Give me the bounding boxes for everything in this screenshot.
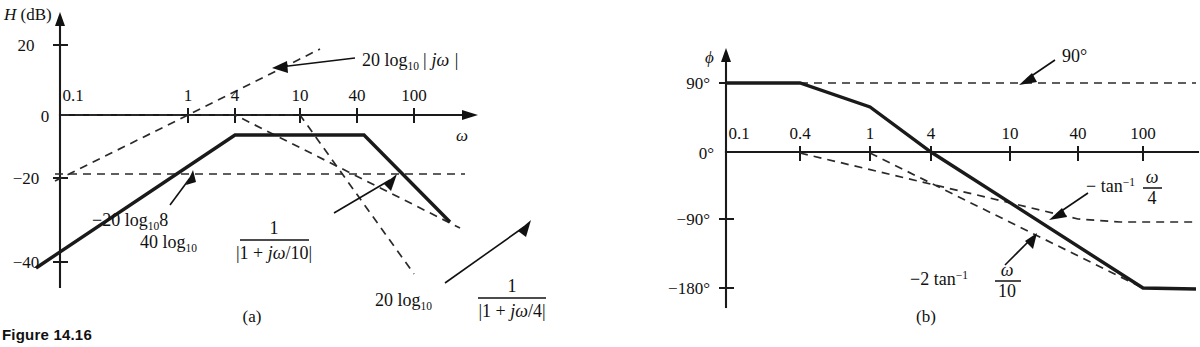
- x-tick-label-0.1-a: 0.1: [62, 86, 83, 105]
- figure-container: H (dB) 20 0 −20 −40 0.1 1 4 10 40 100 ω …: [0, 0, 1200, 347]
- annotation-minus20log8-text: −20 log108: [92, 210, 168, 232]
- panel-a-label: (a): [243, 307, 262, 326]
- x-tick-label-4-b: 4: [927, 124, 936, 143]
- x-tick-label-0.4-b: 0.4: [789, 124, 811, 143]
- panel-b: ϕ 90° 0° −90° −180° 0.1 0.4 1 4 10 40 10…: [668, 46, 1198, 326]
- annotation-2atan-w-over-10-prefix: −2 tan−1: [910, 269, 968, 289]
- annotation-20log-pole4-denominator: |1 + jω/4|: [478, 301, 545, 321]
- annotation-atan-w-over-4-prefix: − tan−1: [1086, 176, 1135, 196]
- x-tick-label-1-a: 1: [184, 86, 193, 105]
- x-tick-label-40-b: 40: [1070, 124, 1087, 143]
- annotation-20log-pole4: 20 log10 1 |1 + jω/4|: [375, 220, 546, 321]
- y-tick-label-0-b: 0°: [699, 144, 714, 163]
- panel-b-y-axis: [719, 48, 734, 307]
- panel-b-label: (b): [916, 307, 936, 326]
- annotation-2atan-w-over-10: −2 tan−1 ω 10: [910, 233, 1037, 301]
- figure-caption: Figure 14.16: [2, 326, 92, 343]
- panel-a-y-axis-title: H (dB): [3, 5, 52, 24]
- panel-a: H (dB) 20 0 −20 −40 0.1 1 4 10 40 100 ω …: [3, 5, 546, 326]
- annotation-2atan-w-over-10-numerator: ω: [1001, 260, 1014, 280]
- y-tick-label-20-a: 20: [18, 36, 35, 55]
- annotation-20log-jw-text: 20 log10| jω |: [362, 50, 459, 72]
- annotation-atan-w-over-4-denominator: 4: [1148, 188, 1157, 208]
- annotation-40log-pole10-prefix: 40 log10: [140, 232, 197, 254]
- x-tick-label-10-a: 10: [292, 86, 309, 105]
- panel-b-y-axis-title: ϕ: [705, 48, 714, 67]
- asymptote-atan-w-over-4: [800, 153, 1196, 222]
- x-tick-label-100-b: 100: [1130, 124, 1156, 143]
- annotation-atan-w-over-4: − tan−1 ω 4: [1049, 167, 1162, 220]
- panel-a-x-axis-title: ω: [456, 126, 468, 145]
- bode-figure-svg: H (dB) 20 0 −20 −40 0.1 1 4 10 40 100 ω …: [0, 0, 1200, 347]
- annotation-20log-pole4-numerator: 1: [508, 276, 517, 296]
- x-axis-arrow-a: [462, 110, 478, 120]
- panel-b-x-axis: [726, 146, 1198, 161]
- annotation-2atan-w-over-10-denominator: 10: [998, 281, 1016, 301]
- x-tick-label-100-a: 100: [401, 86, 427, 105]
- annotation-40log-pole10-numerator: 1: [270, 218, 279, 238]
- y-tick-label-m40-a: −40: [13, 253, 40, 272]
- y-axis-arrow-a: [55, 12, 65, 26]
- x-tick-label-10-b: 10: [1002, 124, 1019, 143]
- y-tick-label-m180-b: −180°: [668, 279, 710, 298]
- annotation-40log-pole10-denominator: |1 + jω/10|: [236, 243, 312, 263]
- annotation-20log-jw: 20 log10| jω |: [272, 50, 459, 73]
- x-tick-label-40-a: 40: [349, 86, 366, 105]
- y-tick-label-m90-b: −90°: [677, 210, 710, 229]
- y-axis-arrow-b: [721, 48, 731, 62]
- x-tick-label-1-b: 1: [866, 124, 875, 143]
- x-tick-label-0.1-b: 0.1: [728, 124, 749, 143]
- annotation-20log-pole4-prefix: 20 log10: [375, 290, 432, 312]
- annotation-const-90-text: 90°: [1062, 46, 1087, 66]
- y-tick-label-0-a: 0: [41, 107, 50, 126]
- annotation-minus20log8: −20 log108: [92, 170, 196, 232]
- panel-a-y-axis: [53, 12, 68, 287]
- y-tick-label-90-b: 90°: [686, 74, 710, 93]
- annotation-const-90: 90°: [1019, 46, 1087, 85]
- y-tick-label-m20-a: −20: [13, 169, 40, 188]
- x-tick-label-4-a: 4: [231, 86, 240, 105]
- annotation-atan-w-over-4-numerator: ω: [1146, 167, 1159, 187]
